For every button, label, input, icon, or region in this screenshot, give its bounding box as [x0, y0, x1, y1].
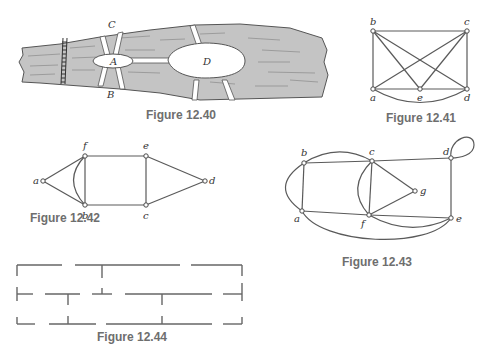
- vertex-e: [449, 216, 453, 220]
- label-a: A: [109, 56, 117, 67]
- vertex-b: [371, 29, 375, 33]
- vertex-b: [83, 203, 87, 207]
- figures-canvas: A D C B b c a e d: [0, 0, 496, 357]
- vertex-f: [83, 154, 87, 158]
- figure-12-43-graph: b c d g a f e: [285, 137, 474, 239]
- label-f: f: [360, 218, 367, 229]
- caption-figure-12-43: Figure 12.43: [342, 255, 412, 269]
- label-f: f: [82, 140, 89, 151]
- vertex-d: [465, 87, 469, 91]
- figure-12-41-graph: b c a e d: [370, 16, 470, 103]
- figure-12-44-floor-plan: [17, 265, 242, 324]
- bridge: [128, 58, 170, 63]
- label-d: d: [464, 92, 470, 103]
- caption-figure-12-44: Figure 12.44: [97, 330, 167, 344]
- label-b: B: [106, 89, 114, 100]
- label-d: D: [202, 56, 211, 67]
- label-c: C: [108, 19, 116, 30]
- vertex-a: [41, 179, 45, 183]
- caption-figure-12-42: Figure 12.42: [30, 211, 100, 225]
- vertex-a: [300, 209, 304, 213]
- label-c: c: [143, 210, 149, 221]
- label-a: a: [370, 92, 376, 103]
- figure-12-40-river-map: A D C B: [19, 19, 328, 100]
- vertex-e: [418, 87, 422, 91]
- label-d: d: [209, 175, 215, 186]
- label-e: e: [417, 92, 423, 103]
- label-e: e: [143, 140, 149, 151]
- vertex-b: [302, 161, 306, 165]
- label-d: d: [443, 146, 449, 157]
- label-b: b: [301, 147, 307, 158]
- label-e: e: [456, 213, 462, 224]
- vertex-e: [144, 154, 148, 158]
- vertex-g: [413, 189, 417, 193]
- label-b: b: [370, 16, 376, 27]
- label-c: c: [369, 146, 375, 157]
- caption-figure-12-41: Figure 12.41: [386, 111, 456, 125]
- caption-figure-12-40: Figure 12.40: [146, 108, 216, 122]
- vertex-c: [144, 203, 148, 207]
- vertex-f: [367, 213, 371, 217]
- label-a: a: [33, 175, 39, 186]
- vertex-d: [203, 179, 207, 183]
- vertex-d: [449, 156, 453, 160]
- label-c: c: [464, 16, 470, 27]
- label-a: a: [294, 213, 300, 224]
- label-g: g: [420, 185, 426, 196]
- figure-12-42-graph: a f e d b c: [33, 140, 215, 221]
- vertex-c: [465, 29, 469, 33]
- vertex-c: [370, 159, 374, 163]
- vertex-a: [371, 87, 375, 91]
